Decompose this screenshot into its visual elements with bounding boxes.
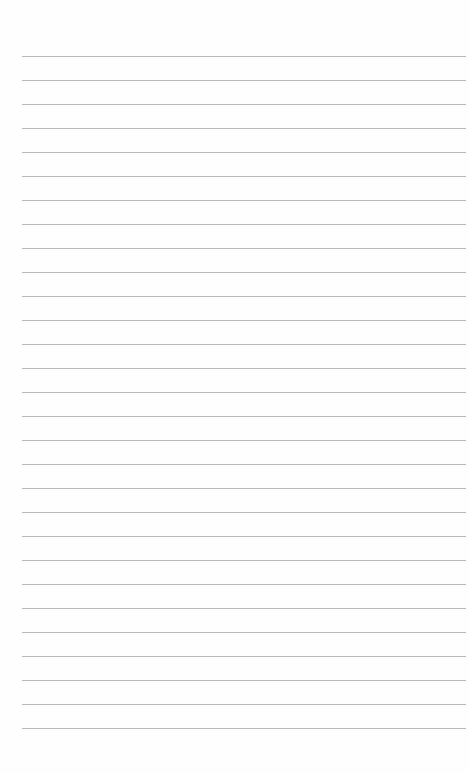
ruled-line (22, 488, 466, 489)
ruled-line (22, 440, 466, 441)
ruled-line (22, 392, 466, 393)
ruled-line (22, 272, 466, 273)
ruled-line (22, 152, 466, 153)
ruled-line (22, 320, 466, 321)
ruled-line (22, 104, 466, 105)
ruled-line (22, 416, 466, 417)
ruled-line (22, 80, 466, 81)
ruled-line (22, 176, 466, 177)
ruled-line (22, 128, 466, 129)
ruled-line (22, 200, 466, 201)
ruled-line (22, 560, 466, 561)
ruled-line (22, 632, 466, 633)
ruled-line (22, 296, 466, 297)
ruled-line (22, 56, 466, 57)
ruled-line (22, 344, 466, 345)
ruled-line (22, 464, 466, 465)
ruled-line (22, 248, 466, 249)
ruled-line (22, 728, 466, 729)
ruled-line (22, 608, 466, 609)
ruled-line (22, 512, 466, 513)
ruled-line (22, 368, 466, 369)
ruled-line (22, 584, 466, 585)
ruled-line (22, 536, 466, 537)
ruled-line (22, 224, 466, 225)
ruled-line (22, 704, 466, 705)
ruled-line (22, 656, 466, 657)
ruled-line (22, 680, 466, 681)
lined-paper-page (0, 0, 470, 773)
